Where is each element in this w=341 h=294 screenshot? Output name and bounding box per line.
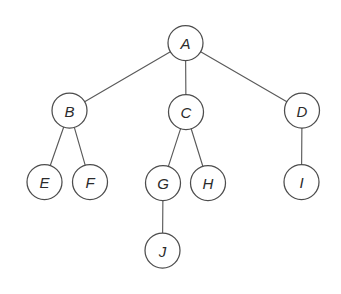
tree-diagram-canvas: ABCDEFGHIJ <box>0 0 341 294</box>
tree-node-h[interactable]: H <box>191 166 226 201</box>
tree-edge-a-d <box>201 52 287 102</box>
tree-node-label-g: G <box>157 175 169 192</box>
edges-group <box>50 52 302 233</box>
tree-node-j[interactable]: J <box>145 233 180 268</box>
tree-node-label-j: J <box>158 243 167 260</box>
tree-edge-b-e <box>50 127 63 165</box>
tree-node-c[interactable]: C <box>169 95 204 130</box>
tree-edge-a-b <box>85 52 171 102</box>
tree-node-label-e: E <box>39 174 50 191</box>
tree-node-e[interactable]: E <box>27 165 62 200</box>
tree-node-b[interactable]: B <box>52 93 87 128</box>
tree-edge-c-g <box>168 129 180 167</box>
tree-node-label-b: B <box>64 103 74 120</box>
tree-node-label-f: F <box>85 174 95 191</box>
tree-node-f[interactable]: F <box>73 165 108 200</box>
tree-node-g[interactable]: G <box>146 166 181 201</box>
tree-node-a[interactable]: A <box>168 26 203 61</box>
tree-node-d[interactable]: D <box>285 93 320 128</box>
tree-node-label-a: A <box>179 35 190 52</box>
tree-diagram-svg: ABCDEFGHIJ <box>0 0 341 294</box>
tree-node-i[interactable]: I <box>284 165 319 200</box>
tree-node-label-d: D <box>297 103 308 120</box>
tree-edge-b-f <box>74 127 85 165</box>
tree-node-label-i: I <box>299 174 303 191</box>
tree-node-label-h: H <box>203 175 214 192</box>
tree-node-label-c: C <box>181 104 192 121</box>
nodes-group: ABCDEFGHIJ <box>27 26 320 269</box>
tree-edge-c-h <box>191 129 203 167</box>
